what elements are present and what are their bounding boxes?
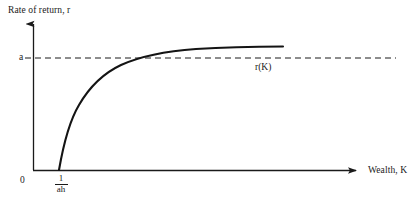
y-axis-tick-label-a: a [19, 53, 23, 63]
y-axis-title: Rate of return, r [8, 6, 70, 16]
fraction-denominator: ah [50, 185, 72, 195]
curve-label-rk: r(K) [255, 63, 271, 73]
x-axis-title: Wealth, K [368, 166, 407, 176]
rate-of-return-chart: Rate of return, r a 0 1 ah r(K) Wealth, … [0, 0, 418, 209]
rate-of-return-curve [59, 47, 283, 171]
origin-label: 0 [20, 176, 25, 186]
x-axis-tick-label-fraction: 1 ah [50, 174, 72, 195]
fraction-numerator: 1 [50, 174, 72, 184]
